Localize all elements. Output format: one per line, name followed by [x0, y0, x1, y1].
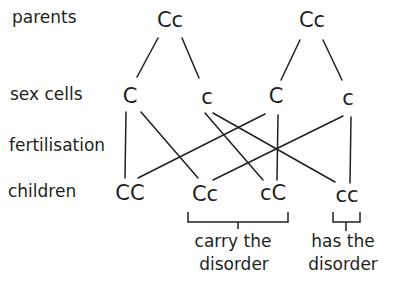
- carrier-label-line1: carry the: [195, 231, 272, 251]
- line-gamete4-to-child4: [350, 117, 351, 183]
- line-gamete1-to-child2: [141, 112, 198, 178]
- child-3-genotype: cC: [260, 181, 286, 205]
- sex-cell-4-allele: c: [342, 86, 354, 110]
- sex-cell-2-allele: c: [201, 85, 213, 109]
- line-p1-to-gamete1: [137, 38, 158, 77]
- line-p2-to-gamete3: [281, 40, 300, 80]
- line-p2-to-gamete4: [323, 40, 342, 80]
- sex-cell-1-allele: C: [123, 84, 138, 108]
- genetic-cross-diagram: parents sex cells fertilisation children…: [0, 0, 393, 285]
- affected-label-line1: has the: [311, 231, 374, 251]
- line-p1-to-gamete2: [182, 38, 199, 78]
- child-4-genotype: cc: [335, 183, 358, 207]
- parent-2-genotype: Cc: [299, 8, 325, 32]
- fertilisation-lines: [125, 112, 351, 183]
- sex-cell-3-allele: C: [269, 84, 284, 108]
- affected-bracket: [333, 212, 360, 231]
- row-label-sex-cells: sex cells: [10, 84, 83, 104]
- row-label-parents: parents: [12, 7, 77, 27]
- line-gamete3-to-child1: [138, 114, 265, 178]
- meiosis-lines: [137, 38, 342, 80]
- child-2-genotype: Cc: [192, 182, 218, 206]
- line-gamete1-to-child1: [125, 112, 126, 178]
- parent-1-genotype: Cc: [157, 8, 183, 32]
- row-label-fertilisation: fertilisation: [9, 135, 105, 155]
- affected-label-line2: disorder: [308, 254, 378, 274]
- carrier-bracket: [188, 212, 288, 229]
- child-1-genotype: CC: [115, 181, 144, 205]
- carrier-label-line2: disorder: [199, 254, 269, 274]
- row-label-children: children: [8, 181, 76, 201]
